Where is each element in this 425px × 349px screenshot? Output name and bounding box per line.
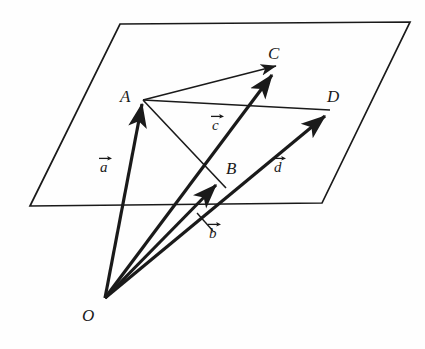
vector-arrow-accent-d — [273, 155, 285, 160]
vector-label-c: c — [212, 118, 219, 133]
vector-arrow-accent-a — [99, 155, 111, 160]
vector-label-b-text: b — [209, 225, 217, 241]
vector-b — [105, 185, 216, 298]
vector-label-a: a — [100, 160, 108, 175]
vector-label-d: d — [274, 160, 282, 175]
vector-label-b: b — [209, 226, 217, 241]
edge-A-D — [143, 100, 330, 110]
vector-diagram: O A B C D a b — [0, 0, 425, 349]
vector-c — [105, 75, 272, 298]
point-label-O: O — [82, 307, 94, 324]
vector-label-c-text: c — [212, 117, 219, 133]
point-label-C: C — [268, 45, 279, 62]
vector-label-a-text: a — [100, 159, 108, 175]
point-label-A: A — [120, 88, 130, 105]
vector-a — [105, 104, 142, 298]
vector-arrow-accent-b — [208, 221, 220, 226]
point-label-B: B — [226, 160, 236, 177]
vector-d — [105, 116, 325, 298]
diagram-canvas — [0, 0, 425, 349]
point-label-D: D — [327, 88, 339, 105]
vector-label-d-text: d — [274, 159, 282, 175]
vector-arrow-accent-c — [211, 113, 223, 118]
